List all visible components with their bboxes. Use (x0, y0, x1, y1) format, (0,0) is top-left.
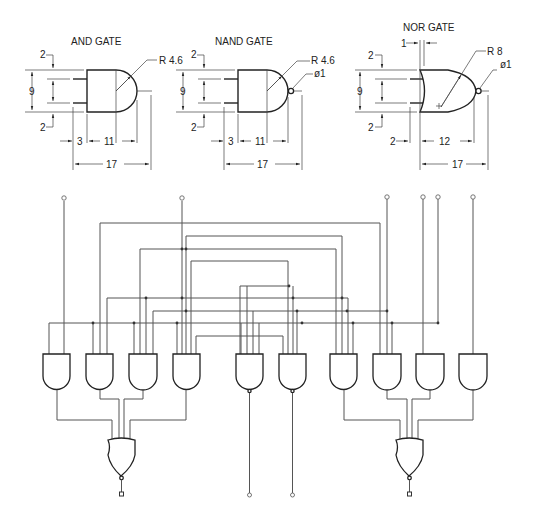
nand-gate-title: NAND GATE (215, 36, 273, 47)
and-gate (330, 354, 357, 390)
svg-text:11: 11 (255, 136, 266, 147)
nand-bubble (288, 88, 293, 93)
svg-text:1: 1 (401, 38, 407, 49)
svg-text:R 4.6: R 4.6 (159, 55, 183, 66)
svg-text:3: 3 (228, 136, 234, 147)
nor-bubble (476, 88, 481, 93)
output-terminal[interactable] (120, 492, 124, 496)
nand-gate (279, 354, 306, 390)
input-terminal[interactable] (471, 195, 475, 199)
nand-gate-shape (238, 70, 288, 112)
svg-text:11: 11 (104, 136, 115, 147)
svg-text:ø1: ø1 (314, 68, 326, 79)
and-gate (129, 354, 157, 390)
circuit-wires (49, 197, 473, 354)
and-gate (43, 354, 70, 390)
output-terminal[interactable] (248, 493, 252, 497)
input-terminal[interactable] (62, 196, 66, 200)
and-gate (373, 354, 401, 390)
nor-gate (396, 438, 423, 476)
svg-text:R 8: R 8 (487, 46, 503, 57)
and-gate-detail: AND GATE 9 2 2 3 11 17 (25, 36, 183, 170)
svg-text:9: 9 (357, 86, 363, 97)
svg-text:2: 2 (368, 50, 374, 61)
input-terminal[interactable] (436, 195, 440, 199)
and-gate-title: AND GATE (71, 36, 122, 47)
and-gate (416, 354, 444, 390)
svg-text:2: 2 (40, 122, 46, 133)
svg-text:ø1: ø1 (500, 59, 512, 70)
nor-gate-shape (420, 70, 476, 112)
svg-text:2: 2 (390, 136, 396, 147)
and-gate (173, 354, 200, 390)
circuit-gates (43, 354, 487, 393)
nor-gate (108, 438, 135, 476)
and-gate-shape (87, 70, 137, 112)
svg-text:3: 3 (77, 136, 83, 147)
svg-text:9: 9 (180, 86, 186, 97)
svg-text:R 4.6: R 4.6 (311, 55, 335, 66)
and-gate (459, 354, 487, 390)
svg-text:2: 2 (40, 49, 46, 60)
svg-text:2: 2 (191, 49, 197, 60)
nand-gate-detail: NAND GATE 9 2 2 3 11 17 R 4.6 ø1 (176, 36, 335, 170)
svg-text:2: 2 (368, 122, 374, 133)
input-terminal[interactable] (180, 196, 184, 200)
output-terminals (120, 492, 412, 497)
and-gate (86, 354, 113, 390)
svg-text:2: 2 (191, 122, 197, 133)
svg-text:17: 17 (257, 159, 269, 170)
nor-gate-title: NOR GATE (403, 22, 455, 33)
logic-diagram-canvas: AND GATE 9 2 2 3 11 17 (0, 0, 536, 524)
input-terminals (62, 195, 475, 200)
input-terminal[interactable] (421, 195, 425, 199)
svg-text:17: 17 (452, 159, 464, 170)
nor-gate-detail: NOR GATE 1 9 2 2 2 12 17 (355, 22, 512, 170)
input-terminal[interactable] (385, 195, 389, 199)
output-terminal[interactable] (408, 492, 412, 496)
output-terminal[interactable] (291, 493, 295, 497)
svg-text:9: 9 (29, 86, 35, 97)
svg-text:17: 17 (106, 159, 118, 170)
svg-text:12: 12 (439, 136, 451, 147)
nand-gate (236, 354, 263, 390)
output-nor-gates (108, 438, 423, 494)
